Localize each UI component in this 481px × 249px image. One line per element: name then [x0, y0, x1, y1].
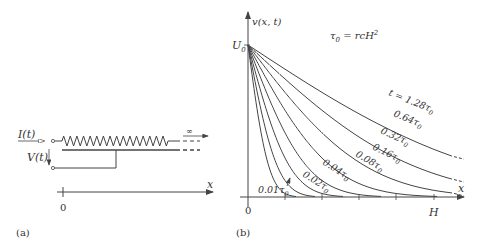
curve-label: 0.64τ0 — [391, 108, 424, 132]
u0-label: U0 — [232, 39, 246, 54]
voltage-label: V(t) — [27, 151, 48, 164]
curve-0_04 — [248, 45, 343, 197]
curves — [248, 45, 464, 197]
x-axis-label-a: x — [207, 178, 214, 191]
x-axis-label-b: x — [458, 182, 465, 195]
origin-label-b: 0 — [245, 205, 251, 216]
h-label: H — [428, 206, 439, 219]
panel-a-label: (a) — [16, 227, 30, 238]
curve-continuation — [454, 157, 464, 160]
distributed-resistor — [55, 136, 176, 146]
origin-label-a: 0 — [60, 202, 66, 213]
input-terminal — [51, 139, 54, 142]
return-terminal — [51, 166, 54, 169]
diagram-canvas: I(t) ∞ V(t) 0 x (a) v(x, t) U0 — [0, 0, 481, 249]
panel-b-chart: v(x, t) U0 τ0 = rcH2 t = 1.28τ00.64τ00.3… — [232, 12, 465, 238]
panel-a-circuit: I(t) ∞ V(t) 0 x (a) — [16, 127, 214, 238]
tau-definition: τ0 = rcH2 — [330, 29, 379, 44]
current-label: I(t) — [17, 128, 35, 141]
curve-label: 0.01τ0 — [258, 184, 289, 198]
panel-b-label: (b) — [236, 227, 250, 238]
infinity-label: ∞ — [186, 127, 193, 136]
y-axis-label: v(x, t) — [252, 16, 282, 27]
